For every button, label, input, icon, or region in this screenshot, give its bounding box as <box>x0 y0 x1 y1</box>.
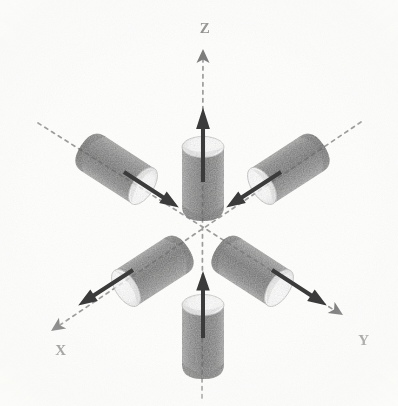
axis-label-z: Z <box>200 20 211 36</box>
figure-canvas: Z X Y <box>0 0 398 406</box>
cylinder-y-negative <box>242 128 336 209</box>
axis-x-arrowhead <box>47 318 66 337</box>
coordinate-diagram: Z X Y <box>0 0 398 406</box>
axis-label-x: X <box>55 342 66 358</box>
axis-label-y: Y <box>358 332 369 348</box>
axis-y-arrowhead <box>328 302 347 320</box>
cylinder-x-negative <box>70 128 164 209</box>
